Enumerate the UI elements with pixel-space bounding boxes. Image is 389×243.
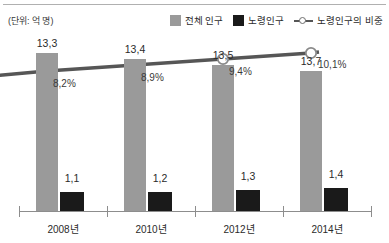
line-marker-icon [294, 15, 313, 26]
bar-elderly-2010 [148, 192, 172, 211]
value-label-elderly-2008: 1,1 [53, 172, 91, 184]
gray-square-icon [170, 15, 181, 26]
x-axis-label-2012: 2012년 [209, 221, 269, 236]
value-label-elderly-2010: 1,2 [141, 172, 179, 184]
pct-label-2014: 10,1% [318, 59, 346, 70]
chart-legend: 전체 인구 노령인구 노령인구의 비중 [170, 13, 383, 27]
legend-label-elderly-share: 노령인구의 비중 [317, 13, 383, 27]
legend-item-elderly-share: 노령인구의 비중 [294, 13, 383, 27]
bar-total-2014 [300, 71, 322, 211]
value-label-total-2012: 13,5 [204, 49, 242, 61]
legend-item-elderly-population: 노령인구 [233, 13, 284, 27]
value-label-elderly-2012: 1,3 [229, 170, 267, 182]
x-axis-label-2008: 2008년 [33, 221, 93, 236]
legend-label-elderly-population: 노령인구 [248, 13, 284, 27]
pct-label-2010: 8,9% [141, 72, 164, 83]
value-label-elderly-2014: 1,4 [317, 168, 355, 180]
plot-area: 13,3 13,4 13,5 13,7 1,1 1,2 1,3 1,4 8,2%… [0, 32, 389, 217]
legend-label-total-population: 전체 인구 [185, 13, 224, 27]
bar-elderly-2014 [324, 188, 348, 211]
unit-note: (단위: 억 명) [8, 14, 54, 27]
top-divider [3, 4, 386, 5]
x-axis-label-2014: 2014년 [297, 221, 357, 236]
bar-elderly-2012 [236, 190, 260, 211]
legend-item-total-population: 전체 인구 [170, 13, 224, 27]
elderly-population-chart: (단위: 억 명) 전체 인구 노령인구 노령인구의 비중 [0, 0, 389, 243]
pct-label-2012: 9,4% [229, 66, 252, 77]
value-label-total-2008: 13,3 [28, 37, 66, 49]
pct-label-2008: 8,2% [53, 78, 76, 89]
bar-total-2008 [36, 53, 58, 211]
bar-elderly-2008 [60, 192, 84, 211]
bar-total-2012 [212, 65, 234, 211]
value-label-total-2010: 13,4 [116, 43, 154, 55]
black-square-icon [233, 15, 244, 26]
x-axis-label-2010: 2010년 [121, 221, 181, 236]
